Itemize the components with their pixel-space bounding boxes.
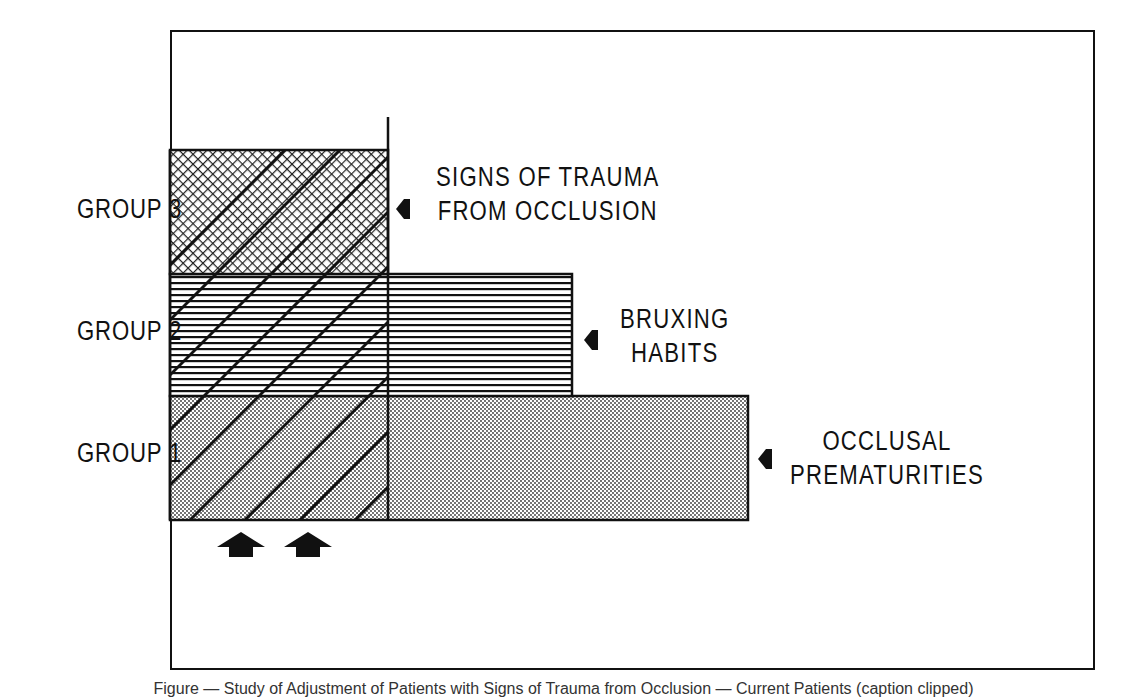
annotation-occlusal: OCCLUSAL PREMATURITIES	[790, 424, 984, 492]
arrow-left-icon	[758, 449, 772, 469]
arrow-left-icon	[584, 330, 598, 350]
annotation-bruxing-line2: HABITS	[620, 336, 729, 370]
y-label-group-2: GROUP 2	[77, 316, 182, 347]
bar-group-1	[170, 396, 748, 520]
annotation-trauma-line1: SIGNS OF TRAUMA	[436, 160, 659, 194]
arrow-up-icon	[217, 532, 265, 557]
arrow-up-icon	[284, 532, 332, 557]
y-label-group-1: GROUP 1	[77, 438, 182, 469]
annotation-bruxing-line1: BRUXING	[620, 302, 729, 336]
annotation-bruxing: BRUXING HABITS	[620, 302, 729, 370]
annotation-trauma: SIGNS OF TRAUMA FROM OCCLUSION	[436, 160, 659, 228]
bar-group-2	[170, 274, 572, 396]
y-label-group-3: GROUP 3	[77, 194, 182, 225]
annotation-occlusal-line1: OCCLUSAL	[790, 424, 984, 458]
annotation-occlusal-line2: PREMATURITIES	[790, 458, 984, 492]
annotation-trauma-line2: FROM OCCLUSION	[436, 194, 659, 228]
arrow-left-icon	[396, 199, 410, 219]
figure-caption: Figure — Study of Adjustment of Patients…	[0, 680, 1127, 700]
